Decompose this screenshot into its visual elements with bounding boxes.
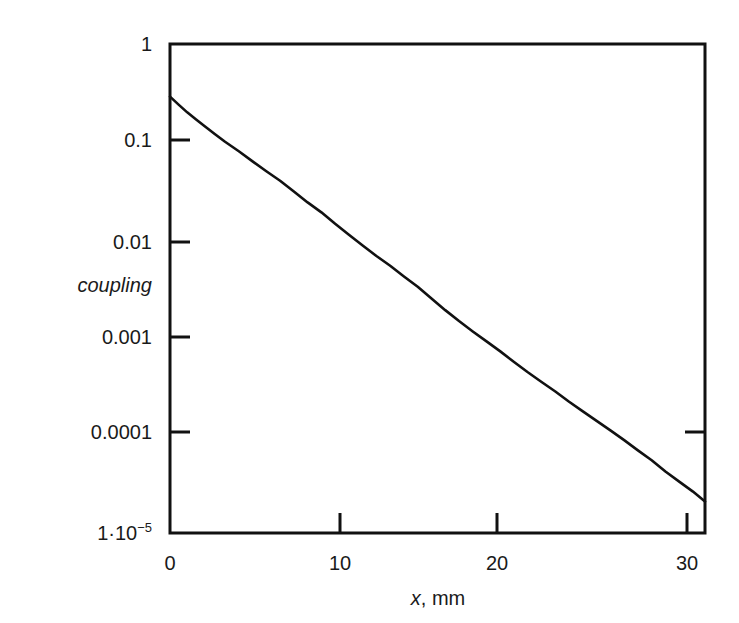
axes-frame bbox=[170, 44, 705, 533]
y-tick-label-0-0001: 0.0001 bbox=[0, 422, 152, 442]
figure-container: 1 0.1 0.01 0.001 0.0001 1·10−5 0 10 20 3… bbox=[0, 0, 739, 623]
y-tick-label-1: 1 bbox=[0, 34, 152, 54]
y-axis-ticks bbox=[170, 140, 190, 432]
y-tick-label-1e-5-mantissa: 1 bbox=[97, 522, 108, 544]
x-tick-label-20: 20 bbox=[486, 553, 508, 573]
data-series-coupling bbox=[170, 97, 705, 502]
y-tick-label-1e-5-dot: · bbox=[108, 522, 115, 544]
x-tick-label-10: 10 bbox=[329, 553, 351, 573]
y-tick-label-1e-5-base: 10 bbox=[115, 522, 137, 544]
x-tick-label-0: 0 bbox=[164, 553, 175, 573]
x-axis-title: x, mm bbox=[411, 588, 465, 608]
x-tick-label-30: 30 bbox=[676, 553, 698, 573]
y-tick-label-0-001: 0.001 bbox=[0, 327, 152, 347]
y-tick-label-0-1: 0.1 bbox=[0, 130, 152, 150]
x-axis-title-units: , mm bbox=[421, 587, 465, 609]
y-tick-label-1e-5-exponent: −5 bbox=[137, 520, 152, 535]
x-axis-ticks bbox=[340, 513, 687, 533]
x-axis-title-variable: x bbox=[411, 587, 421, 609]
y-tick-label-0-01: 0.01 bbox=[0, 232, 152, 252]
axis-spines bbox=[170, 44, 705, 533]
y-axis-title: coupling bbox=[0, 275, 152, 295]
y-tick-label-1e-5: 1·10−5 bbox=[0, 523, 152, 543]
